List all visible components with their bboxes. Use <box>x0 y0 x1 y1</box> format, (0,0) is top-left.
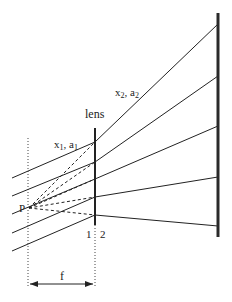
focal-length-label: f <box>60 269 64 283</box>
focus-ray <box>29 179 95 208</box>
outgoing-ray <box>95 76 218 162</box>
region2-label: x2, a2 <box>115 86 139 100</box>
lens-diagram: lens x1, a1 x2, a2 P 1 2 f <box>0 0 232 302</box>
point-p-label: P <box>19 202 25 214</box>
outgoing-ray <box>95 24 218 142</box>
incoming-ray <box>12 215 95 251</box>
focus-rays <box>29 142 95 215</box>
plane-1-label: 1 <box>86 228 92 240</box>
incoming-rays <box>12 142 95 251</box>
focus-ray <box>29 208 95 215</box>
region1-label: x1, a1 <box>54 138 78 152</box>
plane-2-label: 2 <box>100 228 106 240</box>
outgoing-ray <box>95 215 218 226</box>
lens-label: lens <box>85 107 105 121</box>
outgoing-ray <box>95 126 218 179</box>
outgoing-ray <box>95 177 218 197</box>
outgoing-rays <box>95 24 218 226</box>
